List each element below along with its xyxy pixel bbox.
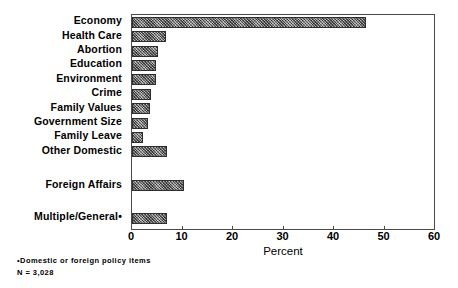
bar xyxy=(132,118,148,129)
bar xyxy=(132,103,150,114)
bar xyxy=(132,180,184,191)
bar xyxy=(132,46,158,57)
bar xyxy=(132,132,143,143)
category-label: Environment xyxy=(0,73,122,84)
plot-area xyxy=(131,14,435,230)
category-label: Multiple/General• xyxy=(0,211,122,222)
category-label: Health Care xyxy=(0,30,122,41)
category-label: Government Size xyxy=(0,116,122,127)
x-tick-label: 20 xyxy=(212,230,252,243)
horizontal-bar-chart: EconomyHealth CareAbortionEducationEnvir… xyxy=(0,0,458,288)
bar xyxy=(132,31,166,42)
bar xyxy=(132,146,167,157)
category-label: Foreign Affairs xyxy=(0,179,122,190)
bar xyxy=(132,74,156,85)
category-label: Family Values xyxy=(0,102,122,113)
bar xyxy=(132,17,366,28)
x-tick-label: 30 xyxy=(263,230,303,243)
category-label: Other Domestic xyxy=(0,145,122,156)
x-tick-label: 40 xyxy=(313,230,353,243)
x-tick-label: 50 xyxy=(364,230,404,243)
category-label: Economy xyxy=(0,15,122,26)
category-label: Family Leave xyxy=(0,130,122,141)
x-tick-label: 0 xyxy=(111,230,151,243)
category-label: Crime xyxy=(0,87,122,98)
x-tick-label: 60 xyxy=(414,230,454,243)
bar xyxy=(132,89,151,100)
footnote-sample-size: N = 3,028 xyxy=(17,267,317,279)
bar xyxy=(132,213,167,224)
category-label: Abortion xyxy=(0,44,122,55)
category-axis: EconomyHealth CareAbortionEducationEnvir… xyxy=(0,14,126,230)
category-label: Education xyxy=(0,58,122,69)
x-tick-label: 10 xyxy=(162,230,202,243)
footnote-asterisk: •Domestic or foreign policy items xyxy=(17,255,317,267)
footnotes: •Domestic or foreign policy items N = 3,… xyxy=(17,255,317,278)
bar xyxy=(132,60,156,71)
